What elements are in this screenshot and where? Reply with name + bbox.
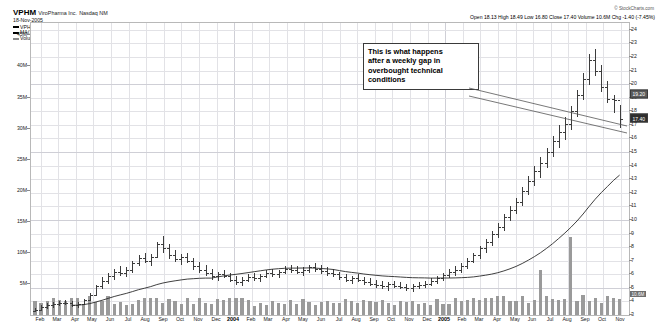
close-value-marker: 17.40 xyxy=(630,114,648,123)
price-axis-tick xyxy=(629,205,632,206)
x-axis-label: Jul xyxy=(336,316,343,322)
price-axis-tick xyxy=(629,29,632,30)
volume-axis-label: 45M xyxy=(0,31,27,37)
annotation-callout: This is what happensafter a weekly gap i… xyxy=(363,43,479,90)
chart-screenshot: VPHM ViroPharma Inc. Nasdaq NM 18-Nov-20… xyxy=(0,0,659,335)
price-axis-tick xyxy=(629,56,632,57)
x-axis-label: Sep xyxy=(580,316,589,322)
x-axis-label: 2005 xyxy=(438,316,450,322)
price-axis-tick xyxy=(629,124,632,125)
price-axis-tick xyxy=(629,165,632,166)
x-axis-label: Aug xyxy=(351,316,360,322)
price-axis-tick xyxy=(629,246,632,247)
moving-average-line xyxy=(31,23,629,315)
volume-axis-tick xyxy=(27,252,30,253)
volume-axis-label: 25M xyxy=(0,156,27,162)
volume-axis-label: 15M xyxy=(0,218,27,224)
volume-axis-label: 35M xyxy=(0,94,27,100)
volume-axis-label: 5M xyxy=(0,280,27,286)
price-axis-tick xyxy=(629,314,632,315)
x-axis-label: May xyxy=(298,316,308,322)
x-axis-label: May xyxy=(510,316,520,322)
annotation-line-2: overbought technical xyxy=(368,66,474,75)
ticker-symbol: VPHM xyxy=(13,8,36,17)
x-axis-label: Dec xyxy=(211,316,220,322)
volume-axis-label: 30M xyxy=(0,125,27,131)
plot-area xyxy=(30,22,630,316)
volume-axis-tick xyxy=(27,65,30,66)
price-axis-tick xyxy=(629,287,632,288)
price-axis-tick xyxy=(629,137,632,138)
price-axis-tick xyxy=(629,233,632,234)
x-axis-label: Apr xyxy=(282,316,290,322)
x-axis-label: Jun xyxy=(106,316,114,322)
price-axis-tick xyxy=(629,83,632,84)
price-swatch-icon xyxy=(13,26,19,28)
x-axis-label: Jun xyxy=(528,316,536,322)
x-axis-label: Sep xyxy=(369,316,378,322)
price-axis-tick xyxy=(629,70,632,71)
volume-value-marker: 10.6M xyxy=(630,291,646,297)
x-axis-label: Jul xyxy=(125,316,132,322)
symbol-line: VPHM ViroPharma Inc. Nasdaq NM xyxy=(13,9,108,17)
x-axis-label: May xyxy=(87,316,97,322)
x-axis-label: Feb xyxy=(458,316,467,322)
volume-axis-tick xyxy=(27,34,30,35)
x-axis-label: Nov xyxy=(193,316,202,322)
x-axis-label: Aug xyxy=(562,316,571,322)
x-axis-label: Apr xyxy=(71,316,79,322)
volume-axis-tick xyxy=(27,97,30,98)
annotation-line-1: after a weekly gap in xyxy=(368,56,474,65)
gridline-horizontal xyxy=(31,315,629,316)
price-axis-tick xyxy=(629,151,632,152)
x-axis-label: Feb xyxy=(247,316,256,322)
price-axis-tick xyxy=(629,300,632,301)
x-axis-label: Apr xyxy=(493,316,501,322)
x-axis-label: Mar xyxy=(264,316,273,322)
ohlc-quote-line: Open 18.13 High 18.49 Low 16.80 Close 17… xyxy=(470,14,655,20)
x-axis-label: Dec xyxy=(422,316,431,322)
exchange-name: Nasdaq NM xyxy=(79,10,107,16)
volume-swatch-icon xyxy=(13,38,19,40)
x-axis-label: Sep xyxy=(158,316,167,322)
price-axis-tick xyxy=(629,219,632,220)
price-axis-tick xyxy=(629,260,632,261)
x-axis-label: Oct xyxy=(176,316,184,322)
x-axis-label: Jul xyxy=(547,316,554,322)
price-axis-tick xyxy=(629,110,632,111)
annotation-line-3: conditions xyxy=(368,75,474,84)
price-axis-tick xyxy=(629,273,632,274)
x-axis-label: Jun xyxy=(317,316,325,322)
price-axis-tick xyxy=(629,192,632,193)
volume-axis-tick xyxy=(27,221,30,222)
company-name: ViroPharma Inc. xyxy=(38,10,77,16)
ma-value-marker: 19.20 xyxy=(630,89,648,98)
volume-axis-label: 20M xyxy=(0,187,27,193)
x-axis-label: Nov xyxy=(615,316,624,322)
x-axis-label: 2004 xyxy=(227,316,239,322)
annotation-line-0: This is what happens xyxy=(368,47,474,56)
volume-axis-tick xyxy=(27,190,30,191)
price-axis-tick xyxy=(629,178,632,179)
volume-axis-tick xyxy=(27,159,30,160)
x-axis-label: Oct xyxy=(598,316,606,322)
x-axis-label: Oct xyxy=(387,316,395,322)
x-axis-label: Feb xyxy=(36,316,45,322)
volume-axis-label: 10M xyxy=(0,249,27,255)
volume-axis-tick xyxy=(27,283,30,284)
x-axis-label: Mar xyxy=(475,316,484,322)
stockcharts-watermark: © StockCharts.com xyxy=(614,6,654,11)
price-axis-tick xyxy=(629,42,632,43)
volume-axis-tick xyxy=(27,128,30,129)
x-axis-label: Aug xyxy=(140,316,149,322)
x-axis-label: Mar xyxy=(53,316,62,322)
volume-axis-label: 40M xyxy=(0,62,27,68)
x-axis-label: Nov xyxy=(404,316,413,322)
